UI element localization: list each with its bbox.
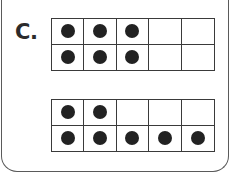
ten-frame-cell	[117, 19, 149, 45]
ten-frame-cell	[149, 19, 181, 45]
ten-frame-cell	[84, 100, 116, 126]
ten-frame-cell	[149, 126, 181, 152]
ten-frame-cell	[84, 19, 116, 45]
ten-frame-cell	[117, 45, 149, 71]
counter-dot-icon	[125, 24, 139, 38]
counter-dot-icon	[93, 105, 107, 119]
counter-dot-icon	[61, 105, 75, 119]
problem-label: C.	[15, 20, 37, 44]
counter-dot-icon	[93, 50, 107, 64]
counter-dot-icon	[158, 131, 172, 145]
counter-dot-icon	[125, 131, 139, 145]
counter-dot-icon	[93, 131, 107, 145]
ten-frame-bottom	[51, 99, 215, 152]
counter-dot-icon	[125, 50, 139, 64]
ten-frame-cell	[182, 100, 214, 126]
counter-dot-icon	[191, 131, 205, 145]
ten-frame-cell	[117, 100, 149, 126]
counter-dot-icon	[93, 24, 107, 38]
counter-dot-icon	[61, 50, 75, 64]
ten-frame-cell	[182, 45, 214, 71]
ten-frame-cell	[117, 126, 149, 152]
counter-dot-icon	[61, 24, 75, 38]
ten-frame-top	[51, 18, 215, 71]
ten-frame-cell	[52, 19, 84, 45]
ten-frame-cell	[52, 45, 84, 71]
ten-frame-cell	[52, 100, 84, 126]
ten-frame-cell	[149, 100, 181, 126]
ten-frame-cell	[84, 126, 116, 152]
ten-frame-cell	[52, 126, 84, 152]
ten-frame-cell	[149, 45, 181, 71]
counter-dot-icon	[61, 131, 75, 145]
ten-frame-cell	[182, 19, 214, 45]
ten-frame-cell	[182, 126, 214, 152]
ten-frame-cell	[84, 45, 116, 71]
